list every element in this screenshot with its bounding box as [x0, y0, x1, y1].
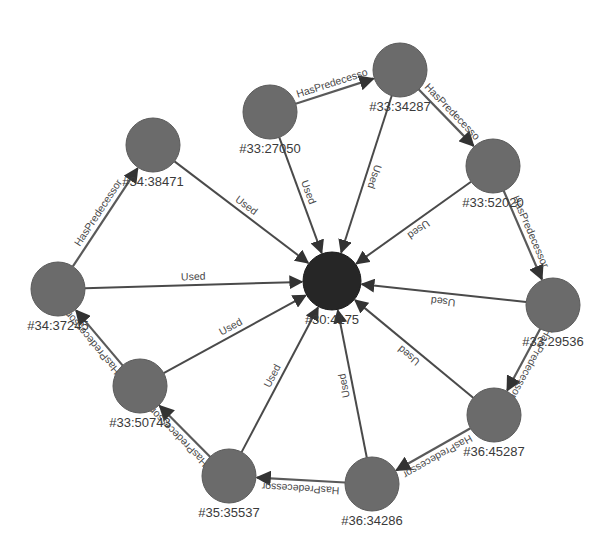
node-circle[interactable]	[466, 139, 520, 193]
node-circle[interactable]	[31, 262, 85, 316]
node-circle[interactable]	[345, 457, 399, 511]
edge-used[interactable]: Used	[85, 270, 302, 289]
edge-label: Used	[395, 343, 422, 368]
graph-node[interactable]: #34:37245	[27, 262, 88, 333]
edge-label: HasPredecesso	[423, 81, 483, 143]
graph-node[interactable]: #33:52020	[462, 139, 523, 210]
node-circle[interactable]	[526, 278, 580, 332]
node-circle[interactable]	[126, 118, 180, 172]
node-label: #36:45287	[463, 444, 524, 459]
edge-label: HasPredecessor	[261, 481, 340, 497]
graph-node[interactable]: #33:27050	[239, 85, 300, 156]
edge-label: HasPredecessor	[71, 176, 124, 248]
graph-node[interactable]: #33:34287	[369, 43, 430, 114]
graph-node[interactable]: #36:34286	[341, 457, 402, 528]
edge-used[interactable]: Used	[164, 295, 306, 373]
edge-label: Used	[405, 218, 432, 242]
edge-used[interactable]: Used	[174, 161, 308, 263]
edge-pred[interactable]: HasPredecesso	[295, 65, 374, 103]
node-label: #30:4175	[305, 312, 359, 327]
node-circle[interactable]	[373, 43, 427, 97]
edge-line	[164, 295, 306, 373]
graph-node[interactable]: #35:35537	[198, 449, 259, 520]
node-label: #33:34287	[369, 99, 430, 114]
edge-used[interactable]: Used	[341, 96, 392, 253]
graph-node[interactable]: #36:45287	[463, 388, 524, 459]
edge-line	[356, 182, 471, 264]
edge-line	[174, 161, 308, 263]
nodes-layer: #33:27050#33:34287#33:52020#33:29536#36:…	[27, 43, 583, 528]
edge-label: Used	[335, 372, 352, 399]
edge-used[interactable]: Used	[335, 310, 367, 457]
edge-used[interactable]: Used	[356, 182, 471, 264]
node-circle[interactable]	[303, 252, 361, 310]
edge-line	[341, 96, 392, 253]
graph-node[interactable]: #33:50743	[109, 359, 170, 430]
node-label: #33:52020	[462, 195, 523, 210]
node-circle[interactable]	[202, 449, 256, 503]
edge-pred[interactable]: HasPredecessor	[257, 478, 345, 498]
node-label: #36:34286	[341, 513, 402, 528]
graph-node[interactable]: #34:38471	[122, 118, 183, 189]
edge-label: Used	[181, 270, 206, 283]
node-circle[interactable]	[113, 359, 167, 413]
node-label: #33:27050	[239, 141, 300, 156]
node-label: #34:37245	[27, 318, 88, 333]
edge-used[interactable]: Used	[242, 308, 318, 453]
edge-used[interactable]: Used	[362, 284, 526, 309]
node-label: #33:50743	[109, 415, 170, 430]
edge-label: Used	[261, 362, 283, 389]
node-label: #35:35537	[198, 505, 259, 520]
edge-used[interactable]: Used	[355, 300, 473, 398]
edge-line	[355, 300, 473, 398]
edge-label: Used	[233, 193, 260, 217]
node-label: #34:38471	[122, 174, 183, 189]
graph-canvas: HasPredecessoHasPredecessoHasPredecessor…	[0, 0, 614, 547]
center-node[interactable]: #30:4175	[303, 252, 361, 327]
node-label: #33:29536	[522, 334, 583, 349]
edge-line	[85, 282, 302, 288]
graph-node[interactable]: #33:29536	[522, 278, 583, 349]
node-circle[interactable]	[243, 85, 297, 139]
edge-label: Used	[430, 295, 456, 310]
edge-line	[242, 308, 318, 453]
edge-label: Used	[217, 315, 244, 337]
node-circle[interactable]	[467, 388, 521, 442]
